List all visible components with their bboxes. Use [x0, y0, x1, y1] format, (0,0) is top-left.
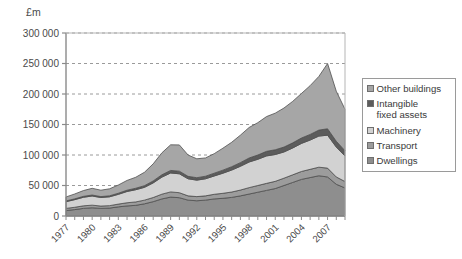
legend-label-other-buildings: Other buildings: [377, 83, 442, 94]
legend-swatch-transport: [367, 142, 374, 149]
y-tick-label: 200 000: [23, 89, 60, 100]
x-tick-label: 1977: [49, 222, 72, 245]
y-tick-label: 100 000: [23, 150, 60, 161]
x-tick-label: 1998: [232, 222, 255, 245]
y-tick-label: 50 000: [28, 180, 59, 191]
legend-label-machinery: Machinery: [377, 125, 421, 136]
legend-label-intangible-fixed-assets: Intangible fixed assets: [377, 98, 428, 120]
y-tick-label: 0: [53, 211, 59, 222]
x-tick-label: 2001: [258, 222, 281, 245]
x-tick-label: 1989: [153, 222, 176, 245]
legend-swatch-other-buildings: [367, 85, 374, 92]
legend-label-dwellings: Dwellings: [377, 155, 418, 166]
x-tick-label: 1995: [205, 222, 228, 245]
y-tick-label: 150 000: [23, 119, 60, 130]
x-tick-label: 2004: [284, 221, 307, 244]
y-tick-label: 300 000: [23, 28, 60, 39]
x-tick-label: 1992: [179, 222, 202, 245]
chart-legend: Other buildings Intangible fixed assets …: [362, 78, 456, 172]
legend-label-transport: Transport: [377, 140, 418, 151]
legend-item-machinery[interactable]: Machinery: [367, 125, 452, 136]
x-tick-label: 1980: [75, 222, 98, 245]
legend-item-transport[interactable]: Transport: [367, 140, 452, 151]
x-tick-label: 1986: [127, 222, 150, 245]
legend-item-other-buildings[interactable]: Other buildings: [367, 83, 452, 94]
legend-swatch-machinery: [367, 127, 374, 134]
legend-item-intangible-fixed-assets[interactable]: Intangible fixed assets: [367, 98, 452, 120]
legend-swatch-dwellings: [367, 157, 374, 164]
x-tick-label: 2007: [310, 222, 333, 245]
chart-container: £m 050 000100 000150 000200 000250 00030…: [0, 0, 462, 259]
y-tick-label: 250 000: [23, 58, 60, 69]
legend-item-dwellings[interactable]: Dwellings: [367, 155, 452, 166]
legend-swatch-intangible-fixed-assets: [367, 100, 374, 107]
x-tick-label: 1983: [101, 222, 124, 245]
